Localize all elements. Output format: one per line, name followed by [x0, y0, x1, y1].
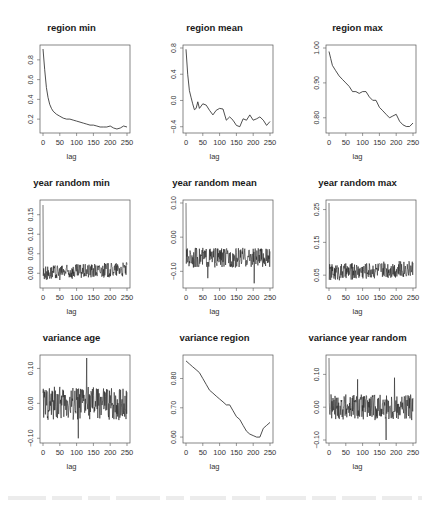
acf-panel: year random max0501001502002500.050.150.…: [286, 155, 429, 311]
svg-text:−0.10: −0.10: [170, 262, 177, 280]
svg-text:150: 150: [87, 293, 100, 302]
svg-text:50: 50: [342, 293, 350, 302]
svg-text:200: 200: [104, 448, 117, 457]
svg-text:100: 100: [70, 448, 83, 457]
svg-text:0.80: 0.80: [170, 372, 177, 386]
acf-line: [186, 361, 270, 437]
plot-area: 0501001502002500.050.150.25: [286, 155, 429, 311]
svg-text:200: 200: [104, 293, 117, 302]
svg-text:0: 0: [327, 293, 331, 302]
svg-text:0: 0: [41, 138, 45, 147]
svg-text:200: 200: [247, 138, 260, 147]
svg-text:50: 50: [56, 293, 64, 302]
acf-line: [186, 49, 270, 126]
acf-panel: year random mean050100150200250−0.100.00…: [143, 155, 286, 311]
acf-panel: variance year random050100150200250−0.10…: [286, 310, 429, 466]
svg-text:0.15: 0.15: [313, 235, 320, 249]
svg-text:100: 100: [70, 293, 83, 302]
svg-text:0.10: 0.10: [27, 362, 34, 376]
acf-panel: region mean050100150200250−0.40.00.40.8l…: [143, 0, 286, 156]
svg-text:250: 250: [121, 138, 134, 147]
svg-text:0.10: 0.10: [27, 227, 34, 241]
plot-area: 0501001502002500.20.40.60.8: [0, 0, 143, 156]
svg-text:250: 250: [407, 448, 420, 457]
plot-area: 0501001502002500.600.700.80: [143, 310, 286, 466]
svg-text:250: 250: [121, 293, 134, 302]
svg-text:150: 150: [230, 138, 243, 147]
acf-panel: variance region0501001502002500.600.700.…: [143, 310, 286, 466]
svg-text:100: 100: [213, 293, 226, 302]
svg-text:200: 200: [390, 138, 403, 147]
svg-text:0.05: 0.05: [27, 247, 34, 261]
svg-text:0: 0: [184, 448, 188, 457]
svg-text:50: 50: [56, 138, 64, 147]
svg-text:0.00: 0.00: [313, 400, 320, 414]
svg-text:150: 150: [373, 293, 386, 302]
svg-text:0.4: 0.4: [27, 94, 34, 104]
svg-text:0.00: 0.00: [27, 396, 34, 410]
acf-plot-grid: region min0501001502002500.20.40.60.8lag…: [0, 0, 430, 470]
figure-caption-faded: [8, 494, 422, 502]
acf-line: [329, 52, 413, 127]
acf-line: [43, 49, 127, 129]
svg-text:100: 100: [356, 293, 369, 302]
acf-line: [186, 203, 270, 283]
svg-text:150: 150: [230, 448, 243, 457]
svg-text:50: 50: [342, 448, 350, 457]
plot-area: 0501001502002500.000.050.100.15: [0, 155, 143, 311]
svg-text:0.8: 0.8: [170, 43, 177, 53]
svg-text:250: 250: [264, 293, 277, 302]
svg-text:250: 250: [407, 138, 420, 147]
svg-text:0: 0: [41, 448, 45, 457]
svg-text:250: 250: [407, 293, 420, 302]
svg-text:150: 150: [87, 138, 100, 147]
svg-text:0.6: 0.6: [27, 75, 34, 85]
acf-panel: year random min0501001502002500.000.050.…: [0, 155, 143, 311]
acf-panel: region max0501001502002500.800.901.00lag: [286, 0, 429, 156]
svg-text:50: 50: [199, 293, 207, 302]
svg-text:0.15: 0.15: [27, 208, 34, 222]
svg-text:0.80: 0.80: [313, 111, 320, 125]
acf-line: [43, 205, 127, 280]
plot-area: 050100150200250−0.100.000.10: [0, 310, 143, 466]
svg-text:0: 0: [184, 138, 188, 147]
svg-text:0.10: 0.10: [313, 367, 320, 381]
x-axis-label: lag: [143, 462, 286, 471]
svg-text:100: 100: [213, 138, 226, 147]
svg-text:0.25: 0.25: [313, 203, 320, 217]
svg-text:0.10: 0.10: [170, 196, 177, 210]
svg-text:200: 200: [390, 293, 403, 302]
svg-text:100: 100: [356, 138, 369, 147]
x-axis-label: lag: [286, 462, 429, 471]
svg-text:150: 150: [230, 293, 243, 302]
svg-text:0.4: 0.4: [170, 69, 177, 79]
svg-text:250: 250: [264, 448, 277, 457]
acf-panel: variance age050100150200250−0.100.000.10…: [0, 310, 143, 466]
svg-text:150: 150: [373, 448, 386, 457]
svg-text:1.00: 1.00: [313, 41, 320, 55]
plot-area: 0501001502002500.800.901.00: [286, 0, 429, 156]
acf-line: [329, 203, 413, 280]
svg-text:0.2: 0.2: [27, 114, 34, 124]
svg-text:150: 150: [87, 448, 100, 457]
svg-text:100: 100: [213, 448, 226, 457]
svg-text:100: 100: [70, 138, 83, 147]
svg-text:150: 150: [373, 138, 386, 147]
svg-text:50: 50: [342, 138, 350, 147]
svg-text:0: 0: [327, 138, 331, 147]
svg-text:0.90: 0.90: [313, 76, 320, 90]
svg-text:0.05: 0.05: [313, 268, 320, 282]
svg-text:0.8: 0.8: [27, 55, 34, 65]
svg-text:0.00: 0.00: [27, 266, 34, 280]
acf-panel: region min0501001502002500.20.40.60.8lag: [0, 0, 143, 156]
svg-text:50: 50: [199, 138, 207, 147]
svg-text:−0.10: −0.10: [27, 429, 34, 447]
svg-text:250: 250: [264, 138, 277, 147]
x-axis-label: lag: [0, 462, 143, 471]
svg-text:200: 200: [104, 138, 117, 147]
svg-text:50: 50: [56, 448, 64, 457]
svg-text:50: 50: [199, 448, 207, 457]
svg-text:−0.10: −0.10: [313, 431, 320, 449]
acf-line: [43, 358, 127, 438]
svg-text:200: 200: [247, 448, 260, 457]
